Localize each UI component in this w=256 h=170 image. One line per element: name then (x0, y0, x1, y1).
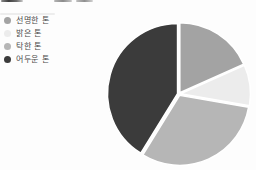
pie-chart (0, 0, 256, 170)
